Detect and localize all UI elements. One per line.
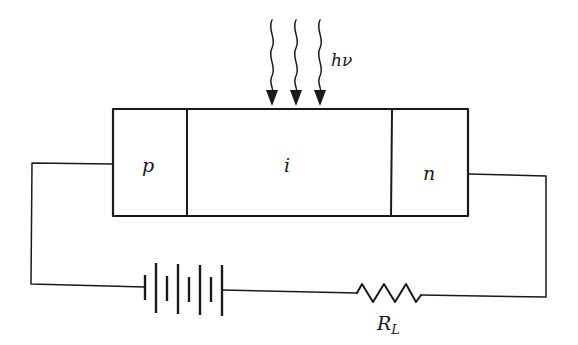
p-region-label: p <box>142 154 154 176</box>
device-body <box>113 109 468 216</box>
load-resistor-label: RL <box>376 312 400 337</box>
photon-energy-label: hν <box>331 50 352 70</box>
photon-arrows-icon <box>271 20 322 95</box>
left-wire <box>31 163 145 287</box>
arrowhead-icon <box>314 90 326 106</box>
battery-icon <box>145 263 222 316</box>
arrowhead-icon <box>266 90 278 106</box>
in-junction-line <box>391 110 392 216</box>
load-resistor-label-main: R <box>376 312 391 334</box>
arrowhead-icon <box>290 90 302 106</box>
n-region-label: n <box>423 162 435 184</box>
right-wire <box>421 174 546 297</box>
resistor-icon <box>357 284 421 302</box>
i-region-label: i <box>284 154 290 176</box>
load-resistor-label-sub: L <box>390 322 400 337</box>
middle-wire <box>222 290 357 293</box>
pin-photodiode-diagram: p i n hν RL <box>0 0 578 345</box>
